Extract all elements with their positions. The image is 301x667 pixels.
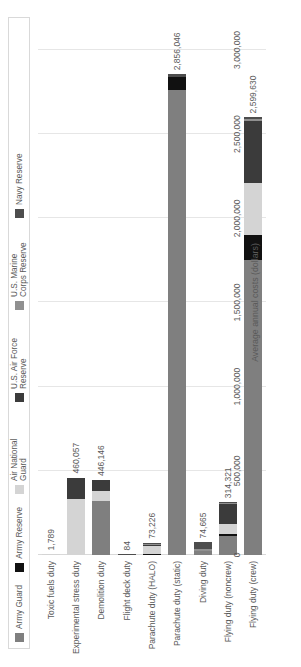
- bar-segment: [168, 74, 186, 77]
- x-axis-title: Average annual costs (dollars): [250, 50, 260, 555]
- bar-row: Toxic fuels duty1,789: [42, 554, 60, 555]
- bar-segment: [143, 554, 161, 555]
- category-label: Experimental stress duty: [71, 561, 81, 654]
- category-label: Diving duty: [198, 561, 208, 603]
- x-axis-tick-label: 3,000,000: [232, 31, 242, 69]
- bar-segment: [92, 480, 110, 491]
- bar-segment: [168, 77, 186, 90]
- category-label: Flying duty (crew): [248, 561, 258, 628]
- bar-segment: [67, 499, 85, 555]
- bar-segment: [143, 543, 161, 544]
- bar-segment: [143, 545, 161, 546]
- bar-segment: [194, 549, 212, 551]
- legend-item: Navy Reserve: [15, 154, 24, 218]
- legend-swatch-icon: [15, 633, 24, 642]
- bar-segment: [219, 503, 237, 504]
- bar-segment: [168, 90, 186, 555]
- bar-segment: [219, 524, 237, 534]
- legend-label: U.S. Marine Corps Reserve: [10, 231, 28, 297]
- legend-item: Air National Guard: [10, 415, 28, 494]
- bar-row: Flying duty (noncrew)314,321: [219, 502, 237, 555]
- bar-segment: [219, 504, 237, 524]
- legend-swatch-icon: [15, 209, 24, 218]
- category-label: Flying duty (noncrew): [223, 561, 233, 642]
- bar-value-label: 73,226: [147, 513, 157, 539]
- x-axis-tick-label: 1,000,000: [232, 368, 242, 406]
- legend-label: Navy Reserve: [15, 154, 24, 205]
- legend-swatch-icon: [15, 485, 24, 494]
- bar-value-label: 2,856,046: [172, 32, 182, 70]
- bar-segment: [143, 546, 161, 554]
- legend-swatch-icon: [15, 301, 24, 310]
- bar-segment: [194, 551, 212, 555]
- bar-row: Demolition duty446,146: [92, 480, 110, 555]
- x-axis-tick-label: 2,500,000: [232, 115, 242, 153]
- bar-row: Flight deck duty84: [118, 554, 136, 555]
- category-label: Demolition duty: [96, 561, 106, 620]
- legend-label: Air National Guard: [10, 415, 28, 481]
- bar-value-label: 460,057: [71, 443, 81, 474]
- bar-row: Parachute duty (HALO)73,226: [143, 543, 161, 555]
- legend-item: U.S. Marine Corps Reserve: [10, 231, 28, 310]
- legend-item: Army Reserve: [15, 507, 24, 572]
- rotated-figure-wrapper: Army GuardArmy ReserveAir National Guard…: [0, 0, 301, 667]
- bar-row: Diving duty74,665: [194, 542, 212, 555]
- bar-segment: [42, 554, 60, 555]
- bar-value-label: 84: [122, 541, 132, 550]
- chart-figure: Army GuardArmy ReserveAir National Guard…: [0, 0, 301, 667]
- legend-label: Army Reserve: [15, 507, 24, 559]
- legend-item: Army Guard: [15, 585, 24, 642]
- legend-swatch-icon: [15, 393, 24, 402]
- bar-segment: [194, 542, 212, 549]
- x-axis-tick-label: 0: [232, 553, 242, 558]
- bar-row: Parachute duty (static)2,856,046: [168, 74, 186, 555]
- bar-segment: [219, 534, 237, 536]
- x-axis-tick-label: 500,000: [232, 455, 242, 486]
- bar-segment: [143, 544, 161, 545]
- bar-value-label: 74,665: [198, 512, 208, 538]
- bar-value-label: 446,146: [96, 445, 106, 476]
- chart-legend: Army GuardArmy ReserveAir National Guard…: [8, 17, 30, 649]
- bar-row: Experimental stress duty460,057: [67, 478, 85, 555]
- legend-label: U.S. Air Force Reserve: [10, 323, 28, 389]
- bar-segment: [118, 554, 136, 555]
- legend-item: U.S. Air Force Reserve: [10, 323, 28, 402]
- bar-segment: [67, 478, 85, 500]
- bar-segment: [219, 502, 237, 503]
- bar-segment: [92, 501, 110, 555]
- legend-label: Army Guard: [15, 585, 24, 629]
- category-label: Flight deck duty: [122, 561, 132, 621]
- category-label: Toxic fuels duty: [46, 561, 56, 619]
- bar-segment: [92, 491, 110, 501]
- bar-value-label: 1,789: [46, 529, 56, 550]
- legend-swatch-icon: [15, 563, 24, 572]
- category-label: Parachute duty (static): [172, 561, 182, 646]
- x-axis-tick-label: 1,500,000: [232, 284, 242, 322]
- x-axis-tick-label: 2,000,000: [232, 199, 242, 237]
- category-label: Parachute duty (HALO): [147, 561, 157, 649]
